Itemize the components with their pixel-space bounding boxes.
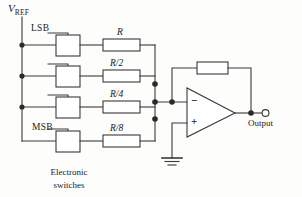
junction-dot-rail-2 [19,73,24,78]
opamp-inverting-input-label: − [191,95,197,106]
resistor-label-R2: R/2 [110,59,123,69]
resistor-label-R4: R/4 [110,90,123,100]
circuit-diagram-figure: VREF LSB MSB R R/2 R/4 R/8 − + Output El… [0,0,302,197]
electronic-switches-caption: Electronic switches [24,166,114,192]
opamp-noninverting-input-label: + [191,116,197,127]
resistor-body-R2 [103,70,140,82]
caption-line-1: Electronic [51,167,88,177]
output-label: Output [248,119,273,128]
resistor-label-R8: R/8 [110,124,123,134]
junction-dot-bus-upper [152,81,158,87]
output-terminal-node [262,110,269,117]
electronic-switch-box-1 [56,35,80,56]
feedback-resistor-body [197,62,228,74]
junction-dot-rail-3 [19,104,24,109]
resistor-body-R4 [103,101,140,113]
junction-dot-output-tap [248,110,254,116]
vref-label: VREF [8,3,29,17]
junction-dot-bus-middle [152,99,158,105]
junction-dot-bus-lower [152,116,158,122]
resistor-body-R [103,39,140,51]
electronic-switch-box-4 [56,131,80,152]
caption-line-2: switches [54,180,85,190]
msb-label: MSB [32,123,53,133]
junction-dot-feedback-tap [169,99,175,105]
electronic-switch-box-2 [56,66,80,87]
lsb-label: LSB [31,24,49,34]
resistor-label-R: R [117,28,123,38]
feedback-right-wire [228,68,251,113]
electronic-switch-box-3 [56,97,80,118]
resistor-body-R8 [103,135,140,147]
noninverting-input-to-ground-wire [172,123,187,158]
junction-dot-rail-1 [19,42,24,47]
